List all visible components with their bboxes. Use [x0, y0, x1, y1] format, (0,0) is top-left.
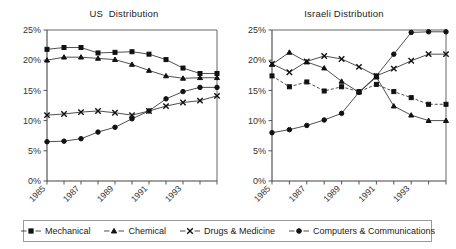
- x-tick-label: 1991: [356, 183, 377, 204]
- y-tick-label: 20%: [23, 55, 41, 65]
- square-marker-icon: [20, 226, 42, 236]
- series-x: [269, 51, 448, 78]
- x-tick-label: 1985: [252, 183, 273, 204]
- y-tick-label: 15%: [248, 86, 266, 96]
- series-square: [45, 46, 219, 76]
- y-tick-label: 20%: [248, 55, 266, 65]
- y-tick-label: 10%: [23, 116, 41, 126]
- legend-item-label: Chemical: [128, 227, 166, 236]
- y-tick-label: 10%: [248, 116, 266, 126]
- legend-item-label: Computers & Communications: [313, 227, 435, 236]
- y-tick-label: 25%: [23, 25, 41, 35]
- legend-item: Chemical: [103, 226, 166, 236]
- legend-item: Drugs & Medicine: [179, 226, 275, 236]
- plot-area-israeli: 0%5%10%15%20%25%19851987198919911993: [228, 0, 456, 215]
- y-tick-label: 15%: [23, 86, 41, 96]
- x-tick-label: 1987: [287, 183, 308, 204]
- legend-item: Computers & Communications: [288, 226, 435, 236]
- legend-item: Mechanical: [20, 226, 91, 236]
- triangle-marker-icon: [103, 226, 125, 236]
- chart-panel-us: US Distribution 0%5%10%15%20%25%19851987…: [0, 0, 228, 215]
- x-marker-icon: [179, 226, 201, 236]
- x-tick-label: 1991: [129, 183, 150, 204]
- legend-item-label: Drugs & Medicine: [204, 227, 275, 236]
- y-tick-label: 25%: [248, 25, 266, 35]
- chart-figure: US Distribution 0%5%10%15%20%25%19851987…: [0, 0, 456, 249]
- chart-panel-israeli: Israeli Distribution 0%5%10%15%20%25%198…: [228, 0, 456, 215]
- y-tick-label: 5%: [28, 146, 41, 156]
- series-x: [44, 93, 219, 118]
- x-tick-label: 1993: [391, 183, 412, 204]
- x-tick-label: 1993: [163, 183, 184, 204]
- x-tick-label: 1989: [321, 183, 342, 204]
- chart-legend: Mechanical Chemical Drugs & Medicine Com…: [23, 220, 432, 242]
- x-tick-label: 1985: [27, 183, 48, 204]
- series-triangle: [270, 50, 449, 123]
- x-tick-label: 1987: [61, 183, 82, 204]
- x-tick-label: 1989: [95, 183, 116, 204]
- circle-marker-icon: [288, 226, 310, 236]
- y-tick-label: 5%: [253, 146, 266, 156]
- series-circle: [270, 30, 448, 135]
- series-triangle: [45, 55, 220, 81]
- plot-area-us: 0%5%10%15%20%25%19851987198919911993: [0, 0, 228, 215]
- legend-item-label: Mechanical: [45, 227, 91, 236]
